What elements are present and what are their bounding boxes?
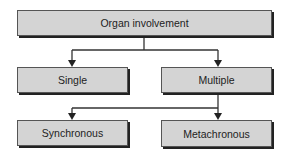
arrowhead-synchronous xyxy=(68,113,76,120)
node-synchronous: Synchronous xyxy=(17,120,128,146)
node-multiple: Multiple xyxy=(161,67,272,93)
node-label: Metachronous xyxy=(183,128,250,140)
node-metachronous: Metachronous xyxy=(161,120,272,147)
arrowhead-metachronous xyxy=(214,113,222,120)
node-label: Multiple xyxy=(198,74,234,86)
node-label: Organ involvement xyxy=(100,17,188,29)
arrowhead-multiple xyxy=(214,60,222,67)
node-single: Single xyxy=(17,67,128,93)
node-label: Synchronous xyxy=(42,127,103,139)
node-label: Single xyxy=(58,74,87,86)
node-organ-involvement: Organ involvement xyxy=(17,10,272,36)
arrowhead-single xyxy=(68,60,76,67)
